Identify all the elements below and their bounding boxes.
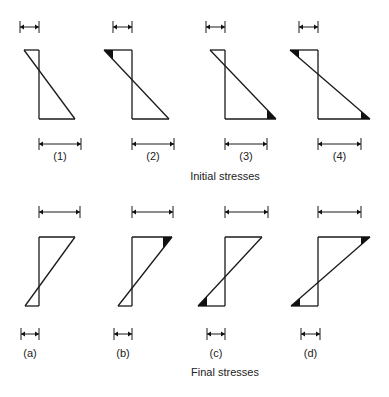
diagram-initial-2-top-dimension-arrowhead-left [206, 25, 210, 30]
diagram-final-1-top-dimension-arrowhead-left [132, 210, 136, 215]
diagram-final-0-bottom-dimension-arrowhead-right [35, 332, 39, 337]
diagram-label: (3) [239, 150, 252, 162]
diagram-final-2-top-dimension-arrowhead-left [225, 210, 229, 215]
diagram-initial-2-bottom-dimension-arrowhead-right [263, 142, 267, 147]
diagram-initial-1-top-dimension-arrowhead-left [113, 25, 117, 30]
diagram-final-1-bottom-dimension-arrowhead-left [114, 332, 118, 337]
diagram-initial-1-bottom-dimension-arrowhead-left [132, 142, 136, 147]
diagram-initial-3-top-dimension-arrowhead-right [314, 25, 318, 30]
diagram-initial-2-stress-line [210, 50, 276, 119]
diagram-initial-0-bottom-dimension-arrowhead-right [77, 142, 81, 147]
diagram-final-3-stress-line [291, 237, 370, 306]
diagram-label: (4) [333, 150, 346, 162]
diagram-initial-0-top-dimension-arrowhead-left [20, 25, 24, 30]
diagram-final-3-top-dimension-arrowhead-right [357, 210, 361, 215]
diagram-final-2-stress-line [198, 237, 262, 306]
diagram-final-1-bottom-dimension-arrowhead-right [128, 332, 132, 337]
diagram-initial-3-stress-line [290, 50, 370, 119]
diagram-initial-0-bottom-dimension-arrowhead-left [39, 142, 43, 147]
diagram-final-2-top-dimension-arrowhead-right [264, 210, 268, 215]
diagram-final-0-top-dimension-arrowhead-right [76, 210, 80, 215]
diagram-label: (a) [23, 347, 36, 359]
final-stresses-caption: Final stresses [191, 366, 259, 378]
diagram-initial-1-bottom-dimension-arrowhead-right [170, 142, 174, 147]
diagram-label: (2) [146, 150, 159, 162]
diagram-initial-2-bottom-dimension-arrowhead-left [225, 142, 229, 147]
initial-stresses-caption: Initial stresses [190, 170, 260, 182]
diagram-final-3-top-dimension-arrowhead-left [318, 210, 322, 215]
stress-diagram-canvas [0, 0, 389, 397]
diagram-initial-1-stress-line [104, 50, 169, 119]
diagram-final-0-top-dimension-arrowhead-left [39, 210, 43, 215]
diagram-initial-1-top-dimension-arrowhead-right [128, 25, 132, 30]
diagram-initial-3-top-dimension-arrowhead-left [299, 25, 303, 30]
diagram-final-1-top-dimension-arrowhead-right [169, 210, 173, 215]
diagram-final-2-bottom-dimension-arrowhead-left [207, 332, 211, 337]
diagram-initial-2-top-dimension-arrowhead-right [221, 25, 225, 30]
diagram-final-2-bottom-dimension-arrowhead-right [221, 332, 225, 337]
diagram-final-3-bottom-dimension-arrowhead-right [316, 332, 320, 337]
diagram-label: (1) [53, 150, 66, 162]
diagram-final-0-bottom-dimension-arrowhead-left [21, 332, 25, 337]
diagram-initial-3-bottom-dimension-arrowhead-right [357, 142, 361, 147]
diagram-final-0-stress-line [25, 237, 75, 306]
diagram-label: (c) [210, 347, 223, 359]
diagram-label: (d) [304, 347, 317, 359]
diagram-label: (b) [116, 347, 129, 359]
diagram-initial-0-stress-line [24, 50, 75, 119]
diagram-final-3-bottom-dimension-arrowhead-left [301, 332, 305, 337]
diagram-initial-0-top-dimension-arrowhead-right [35, 25, 39, 30]
diagram-initial-3-bottom-dimension-arrowhead-left [318, 142, 322, 147]
